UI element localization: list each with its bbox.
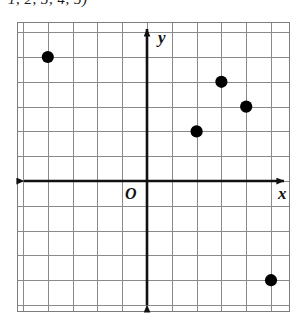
origin-label: O bbox=[125, 185, 137, 202]
y-axis-label: y bbox=[156, 28, 166, 47]
coordinate-plane-svg: y x O bbox=[0, 0, 297, 318]
data-point bbox=[191, 125, 203, 137]
data-point bbox=[215, 76, 227, 88]
plot-background bbox=[0, 0, 297, 318]
coordinate-plane-figure: 1, 2, 3, 4, 5) y bbox=[0, 0, 297, 318]
clipped-caption-strip: 1, 2, 3, 4, 5) bbox=[0, 0, 297, 11]
x-axis-label: x bbox=[277, 184, 287, 203]
caption-text: 1, 2, 3, 4, 5) bbox=[8, 0, 88, 8]
data-point bbox=[240, 101, 252, 113]
data-point bbox=[42, 51, 54, 63]
data-point bbox=[265, 274, 277, 286]
